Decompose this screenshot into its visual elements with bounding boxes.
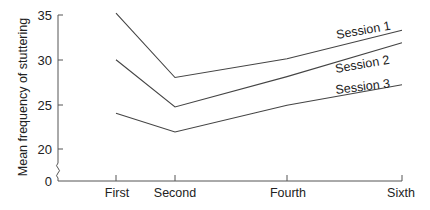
- y-tick-label: 20: [38, 142, 52, 157]
- series-line-session-2: [116, 43, 402, 107]
- series-label: Session 2: [334, 53, 391, 76]
- x-tick-label: Second: [154, 186, 196, 200]
- y-tick-label: 35: [38, 8, 52, 23]
- y-tick-label: 25: [38, 98, 52, 113]
- y-tick-label: 0: [45, 174, 52, 189]
- series-labels: Session 1 Session 2 Session 3: [334, 19, 392, 97]
- series-label: Session 3: [335, 76, 391, 97]
- x-axis: First Second Fourth Sixth: [58, 175, 415, 200]
- y-axis-title: Mean frequency of stuttering: [16, 18, 30, 176]
- y-tick-label: 30: [38, 53, 52, 68]
- x-tick-label: First: [105, 186, 130, 200]
- x-tick-label: Fourth: [270, 186, 306, 200]
- axis-break-icon: [57, 163, 60, 181]
- y-axis: 35 30 25 20 0 Mean frequency of stutteri…: [16, 8, 63, 189]
- line-chart: 35 30 25 20 0 Mean frequency of stutteri…: [0, 0, 430, 210]
- series-label: Session 1: [335, 19, 392, 42]
- x-tick-label: Sixth: [387, 186, 415, 200]
